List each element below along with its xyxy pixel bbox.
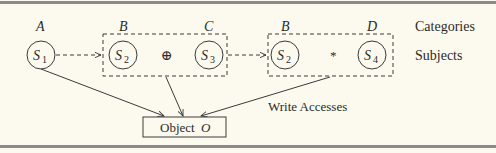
category-label-d: D: [366, 19, 377, 34]
row-label-subjects: Subjects: [415, 48, 462, 63]
subject-node-s2a: S 2: [109, 41, 137, 69]
subject-node-s4: S 4: [358, 41, 386, 69]
category-label-c: C: [204, 19, 214, 34]
write-accesses-label: Write Accesses: [268, 99, 347, 114]
subject-node-s2b: S 2: [271, 41, 299, 69]
svg-text:O: O: [201, 120, 211, 135]
svg-text:1: 1: [42, 54, 47, 65]
svg-text:4: 4: [373, 54, 378, 65]
svg-text:3: 3: [210, 54, 215, 65]
svg-text:2: 2: [286, 54, 291, 65]
write-arrow-group1: [166, 77, 183, 116]
category-label-b2: B: [281, 19, 290, 34]
top-rule: [0, 1, 496, 4]
operator-star: *: [330, 48, 337, 63]
row-label-categories: Categories: [415, 19, 475, 34]
bottom-rule: [0, 145, 496, 148]
subject-node-s1: S 1: [27, 41, 55, 69]
operator-oplus: ⊕: [161, 48, 173, 63]
svg-text:2: 2: [124, 54, 129, 65]
subject-node-s3: S 3: [195, 41, 223, 69]
category-label-a: A: [35, 19, 45, 34]
category-label-b1: B: [119, 19, 128, 34]
svg-text:S: S: [364, 48, 371, 63]
diagram: A B C B D Categories Subjects S 1 S 2 ⊕ …: [0, 0, 496, 153]
svg-text:S: S: [115, 48, 122, 63]
object-node: Object O: [143, 117, 226, 137]
svg-text:Object: Object: [160, 120, 195, 135]
svg-text:S: S: [33, 48, 40, 63]
svg-text:S: S: [201, 48, 208, 63]
svg-text:S: S: [277, 48, 284, 63]
